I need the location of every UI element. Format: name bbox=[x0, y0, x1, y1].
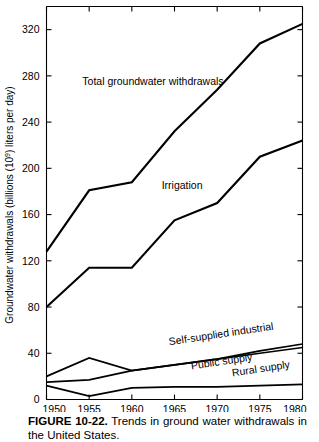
y-tick-label: 320 bbox=[22, 23, 40, 35]
ylabel-part-2: ) liters per day) bbox=[4, 86, 15, 153]
series-line-irrigation bbox=[47, 141, 303, 307]
y-tick-label: 280 bbox=[22, 70, 40, 82]
x-tick-label: 1980 bbox=[283, 403, 307, 413]
x-tick-label: 1950 bbox=[43, 403, 67, 413]
x-axis-ticks: 1950195519601965197019751980 bbox=[43, 7, 307, 413]
annotation-self-supplied-industrial: Self-supplied industrial bbox=[168, 320, 274, 347]
x-tick-label: 1970 bbox=[205, 403, 229, 413]
y-tick-label: 160 bbox=[22, 208, 40, 220]
y-tick-label: 240 bbox=[22, 116, 40, 128]
x-tick-label: 1975 bbox=[248, 403, 272, 413]
y-tick-label: 0 bbox=[34, 393, 40, 405]
series-line-rural-supply bbox=[47, 384, 303, 396]
caption-label: FIGURE 10-22. bbox=[28, 415, 108, 427]
y-tick-label: 200 bbox=[22, 162, 40, 174]
x-tick-label: 1955 bbox=[77, 403, 101, 413]
x-tick-label: 1965 bbox=[163, 403, 187, 413]
figure-root: Groundwater withdrawals (billions (109) … bbox=[0, 0, 319, 442]
y-tick-label: 80 bbox=[28, 301, 40, 313]
y-tick-label: 120 bbox=[22, 255, 40, 267]
ylabel-part-1: Groundwater withdrawals (billions (10 bbox=[4, 156, 15, 323]
series-line-total-groundwater-withdrawals bbox=[47, 24, 303, 252]
x-tick-label: 1960 bbox=[120, 403, 144, 413]
y-axis-label-text: Groundwater withdrawals (billions (109) … bbox=[4, 86, 16, 323]
annotation-total-groundwater-withdrawals: Total groundwater withdrawals bbox=[82, 75, 223, 87]
chart-plot-area: Groundwater withdrawals (billions (109) … bbox=[0, 0, 319, 412]
line-chart-svg: Groundwater withdrawals (billions (109) … bbox=[0, 0, 319, 412]
y-axis-label: Groundwater withdrawals (billions (109) … bbox=[4, 86, 16, 323]
y-tick-label: 40 bbox=[28, 347, 40, 359]
figure-caption: FIGURE 10-22. Trends in ground water wit… bbox=[0, 414, 319, 442]
annotation-irrigation: Irrigation bbox=[162, 179, 203, 191]
